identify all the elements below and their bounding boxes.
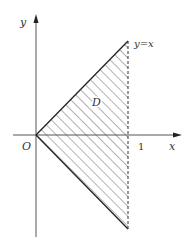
y-axis-label: y: [19, 16, 27, 29]
x-tick-label-1: 1: [138, 141, 144, 152]
y-axis-arrow-icon: [34, 14, 39, 23]
region-diagram: y x O 1 y=x D: [0, 0, 186, 252]
x-axis-label: x: [169, 140, 176, 153]
curve-label-y-equals-x: y=x: [133, 38, 154, 49]
origin-label: O: [22, 140, 31, 153]
y-axis: [34, 14, 39, 237]
x-axis-arrow-icon: [173, 133, 182, 138]
region-label-d: D: [91, 96, 101, 109]
